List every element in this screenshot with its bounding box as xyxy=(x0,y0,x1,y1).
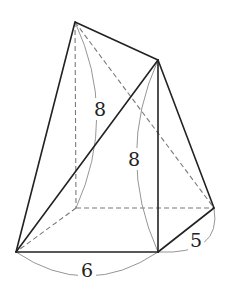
edge-DE xyxy=(158,208,214,252)
label-height-front: 8 xyxy=(128,148,140,170)
edge-BE xyxy=(158,60,214,208)
edge-AC xyxy=(16,22,75,252)
hidden-edge-AF xyxy=(75,22,76,208)
geometry-figure: 8 8 6 5 xyxy=(0,0,233,294)
label-base-width: 6 xyxy=(81,259,93,281)
label-height-back: 8 xyxy=(94,98,106,120)
label-base-depth: 5 xyxy=(190,229,202,251)
